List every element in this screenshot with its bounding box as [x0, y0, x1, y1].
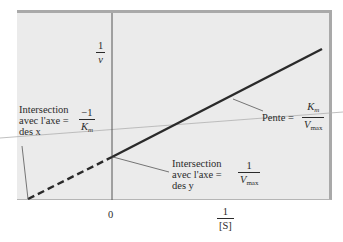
slope-leader [233, 99, 263, 111]
slope-value: Km Vmax [302, 101, 324, 134]
y-intercept-value: 1 Vmax [238, 160, 260, 189]
x-axis-label: 1 [S] [217, 206, 234, 231]
y-intercept-text: Intersection avec l'axe = des y [172, 158, 222, 191]
origin-label: 0 [108, 209, 113, 220]
slope-label: Pente = [262, 112, 294, 123]
solid-plot-line [112, 49, 322, 157]
y-intercept-leader [113, 157, 169, 172]
dashed-extrapolation-line [28, 157, 112, 199]
x-intercept-leader [22, 146, 28, 199]
x-intercept-value: −1 Km [79, 107, 95, 136]
x-intercept-text: Intersection avec l'axe = des x [19, 104, 69, 137]
y-axis-label: 1 v [96, 40, 105, 65]
